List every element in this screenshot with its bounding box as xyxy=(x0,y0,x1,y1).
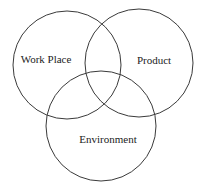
venn-diagram: Work Place Product Environment xyxy=(0,0,204,190)
label-product: Product xyxy=(137,54,171,66)
circle-work-place xyxy=(13,11,121,119)
circle-environment xyxy=(46,71,156,181)
label-environment: Environment xyxy=(79,133,136,145)
label-work-place: Work Place xyxy=(21,53,72,65)
